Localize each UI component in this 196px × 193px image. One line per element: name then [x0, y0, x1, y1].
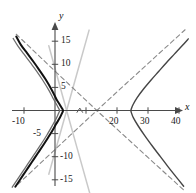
- shallow-asymptote-negative: [16, 34, 185, 191]
- asymptote-layer: [16, 30, 185, 193]
- y-tick-label-10: 10: [61, 59, 71, 69]
- curve-layer: [12, 37, 188, 188]
- x-tick-label-40: 40: [171, 117, 181, 127]
- y-axis-label: y: [59, 11, 63, 21]
- y-tick-label-neg10: -10: [60, 152, 73, 162]
- x-tick-label-30: 30: [140, 117, 150, 127]
- y-tick-label-5: 5: [61, 82, 66, 92]
- left-branch-bold: [15, 37, 63, 187]
- shallow-asymptote-positive: [18, 30, 185, 185]
- hyperbola-figure: 15 10 5 -5 -10 -15 -10 20 30 40 x y: [0, 0, 196, 193]
- x-axis-label: x: [185, 102, 189, 112]
- right-branch: [131, 39, 188, 186]
- x-tick-label-neg10: -10: [12, 117, 25, 127]
- axes: [12, 22, 183, 186]
- y-tick-label-neg5: -5: [33, 129, 41, 139]
- x-tick-label-20: 20: [109, 117, 119, 127]
- y-tick-label-neg15: -15: [60, 175, 73, 185]
- y-tick-label-15: 15: [61, 36, 71, 46]
- plot-canvas: [0, 0, 196, 193]
